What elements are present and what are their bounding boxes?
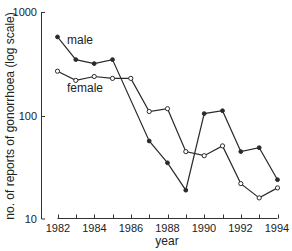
female-data-point (129, 76, 133, 80)
female-series-label: female (67, 81, 103, 95)
male-data-point (74, 58, 78, 62)
male-series-label: male (67, 33, 93, 47)
x-tick-1988: 1988 (155, 222, 179, 234)
male-data-point (147, 139, 151, 143)
female-data-point (220, 144, 224, 148)
x-axis (58, 215, 279, 219)
female-data-point (55, 69, 59, 73)
male-line (58, 37, 278, 190)
male-data-point (221, 109, 225, 113)
female-data-point (92, 74, 96, 78)
male-data-point (56, 35, 60, 39)
female-data-point (202, 154, 206, 158)
x-tick-1984: 1984 (82, 222, 106, 234)
caption-cutoff (4, 238, 288, 251)
y-tick-100: 100 (19, 110, 37, 122)
female-data-point (239, 182, 243, 186)
male-data-point (184, 188, 188, 192)
male-data-point (166, 161, 170, 165)
x-tick-1994: 1994 (265, 222, 289, 234)
female-data-point (147, 109, 151, 113)
chart: 1000 100 10 1982 1984 1986 1988 1990 199… (0, 0, 292, 251)
y-tick-10: 10 (25, 213, 37, 225)
male-data-point (111, 58, 115, 62)
female-data-point (257, 196, 261, 200)
y-axis-title: no. of reports of gonorrhoea (log scale) (3, 12, 17, 219)
male-series (56, 35, 280, 192)
x-tick-1982: 1982 (46, 222, 70, 234)
male-data-point (239, 150, 243, 154)
x-tick-1986: 1986 (119, 222, 143, 234)
female-data-point (110, 76, 114, 80)
female-data-point (184, 150, 188, 154)
x-tick-1990: 1990 (192, 222, 216, 234)
plot-area (55, 35, 279, 200)
male-data-point (92, 62, 96, 66)
x-tick-1992: 1992 (228, 222, 252, 234)
male-data-point (276, 178, 280, 182)
y-axis (42, 12, 46, 219)
female-data-point (275, 186, 279, 190)
male-data-point (257, 146, 261, 150)
female-data-point (165, 107, 169, 111)
male-data-point (202, 112, 206, 116)
